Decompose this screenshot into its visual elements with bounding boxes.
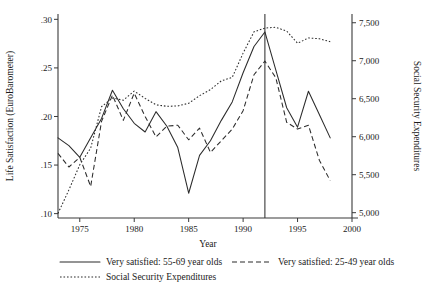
right-tick-label: 6,000: [359, 132, 380, 142]
plot-series-group: [58, 27, 330, 213]
right-tick-label: 7,500: [359, 18, 380, 28]
left-tick-label: .30: [41, 15, 53, 25]
x-tick-label: 1990: [234, 224, 253, 234]
legend-label: Very satisfied: 25-49 year olds: [278, 257, 394, 267]
right-tick-label: 5,000: [359, 208, 380, 218]
left-tick-label: .25: [41, 63, 53, 73]
y-axis-label-left: Life Satisfaction (EuroBarometer): [5, 51, 16, 181]
left-tick-label: .15: [41, 160, 53, 170]
chart-figure: .10.15.20.25.30 5,0005,5006,0006,5007,00…: [0, 0, 427, 296]
left-axis-ticks: .10.15.20.25.30: [41, 15, 58, 219]
left-tick-label: .10: [41, 209, 53, 219]
x-tick-label: 1985: [180, 224, 199, 234]
bottom-axis-ticks: 197519801985199019952000: [71, 218, 362, 234]
right-tick-label: 5,500: [359, 170, 380, 180]
series-line-solid: [58, 32, 330, 193]
x-tick-label: 1975: [71, 224, 90, 234]
chart-legend: Very satisfied: 55-69 year oldsVery sati…: [60, 257, 394, 282]
right-tick-label: 7,000: [359, 56, 380, 66]
y-axis-label-right: Social Security Expenditures: [412, 61, 422, 172]
legend-label: Social Security Expenditures: [106, 272, 217, 282]
left-tick-label: .20: [41, 112, 53, 122]
x-tick-label: 1995: [289, 224, 308, 234]
right-axis-ticks: 5,0005,5006,0006,5007,0007,500: [352, 18, 380, 218]
chart-svg: .10.15.20.25.30 5,0005,5006,0006,5007,00…: [0, 0, 427, 296]
legend-label: Very satisfied: 55-69 year olds: [106, 257, 222, 267]
x-axis-label: Year: [199, 239, 217, 249]
x-tick-label: 2000: [343, 224, 362, 234]
series-line-dotted: [58, 27, 330, 213]
right-tick-label: 6,500: [359, 94, 380, 104]
x-tick-label: 1980: [125, 224, 144, 234]
